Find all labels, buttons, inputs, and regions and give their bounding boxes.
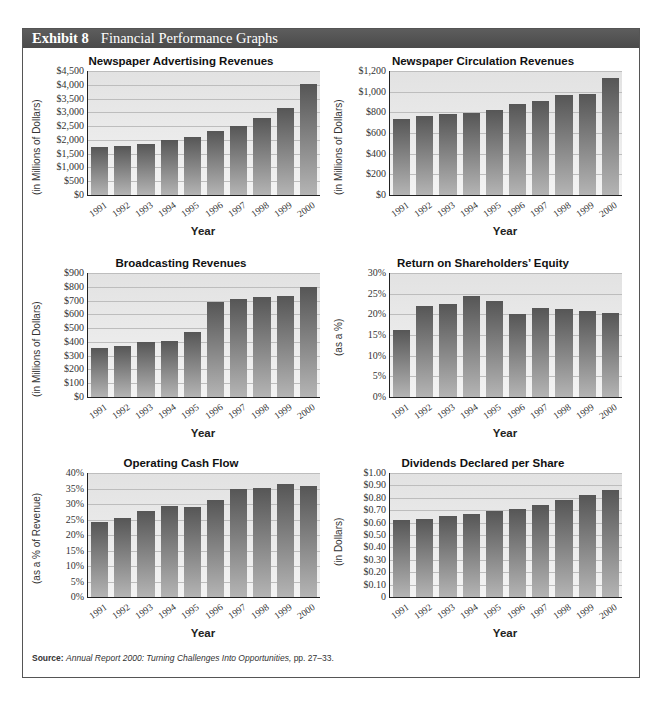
x-tick-label: 1991 — [87, 602, 108, 621]
x-tick-label: 1995 — [482, 402, 503, 421]
y-tick-label: $0.30 — [342, 554, 386, 565]
gridline — [390, 473, 622, 474]
x-tick-label: 1999 — [575, 402, 596, 421]
x-tick-label: 1996 — [203, 200, 224, 219]
x-tick-label: 1996 — [505, 602, 526, 621]
x-tick-label: 2000 — [296, 402, 317, 421]
y-tick-label: $0.10 — [342, 579, 386, 590]
x-tick-label: 1991 — [389, 602, 410, 621]
bar-1995 — [184, 332, 201, 397]
y-tick-label: $0 — [40, 391, 84, 402]
plot-area — [87, 273, 320, 398]
plot-area — [389, 71, 622, 196]
x-tick-label: 1997 — [226, 402, 247, 421]
bar-1991 — [91, 522, 108, 597]
y-tick-label: 0 — [342, 591, 386, 602]
y-tick-label: 0% — [342, 391, 386, 402]
x-tick-label: 1991 — [87, 200, 108, 219]
bar-1998 — [253, 118, 270, 195]
source-note: Source: Annual Report 2000: Turning Chal… — [32, 653, 334, 663]
y-tick-label: 10% — [40, 560, 84, 571]
x-tick-label: 1992 — [110, 402, 131, 421]
gridline — [390, 294, 622, 295]
y-tick-label: $700 — [40, 295, 84, 306]
x-tick-label: 1991 — [389, 200, 410, 219]
x-axis-label: Year — [173, 225, 233, 237]
bar-1994 — [463, 296, 480, 397]
y-tick-label: $300 — [40, 350, 84, 361]
bar-2000 — [602, 313, 619, 397]
y-tick-label: $0.70 — [342, 504, 386, 515]
bar-1992 — [416, 519, 433, 597]
x-tick-label: 2000 — [598, 402, 619, 421]
exhibit-frame: Exhibit 8 Financial Performance Graphs N… — [22, 28, 640, 678]
y-tick-label: $2,000 — [40, 134, 84, 145]
x-tick-label: 1994 — [157, 602, 178, 621]
chart-operating-cash-flow: Operating Cash Flow(as a % of Revenue)0%… — [31, 457, 331, 652]
y-tick-label: $600 — [40, 308, 84, 319]
x-tick-label: 1995 — [482, 200, 503, 219]
x-tick-label: 1999 — [575, 200, 596, 219]
x-tick-label: 1996 — [203, 602, 224, 621]
bar-1999 — [579, 311, 596, 397]
y-tick-label: $0.50 — [342, 529, 386, 540]
x-tick-label: 2000 — [598, 200, 619, 219]
chart-dividends-per-share: Dividends Declared per Share(in Dollars)… — [333, 457, 633, 652]
x-tick-label: 1992 — [412, 402, 433, 421]
bar-1991 — [393, 119, 410, 195]
y-tick-label: 15% — [40, 545, 84, 556]
bar-1999 — [579, 94, 596, 195]
x-tick-label: 1993 — [435, 200, 456, 219]
x-tick-label: 1994 — [459, 402, 480, 421]
x-tick-label: 1995 — [482, 602, 503, 621]
y-tick-label: $600 — [342, 127, 386, 138]
x-tick-label: 1997 — [226, 200, 247, 219]
bar-1995 — [486, 301, 503, 397]
bar-1993 — [439, 114, 456, 195]
y-tick-label: $400 — [342, 148, 386, 159]
chart-advertising-revenues: Newspaper Advertising Revenues(in Millio… — [31, 55, 331, 250]
plot-area — [389, 473, 622, 598]
x-tick-label: 1994 — [459, 602, 480, 621]
x-tick-label: 1999 — [273, 602, 294, 621]
x-tick-label: 1992 — [110, 602, 131, 621]
bar-1999 — [579, 495, 596, 597]
bar-1994 — [161, 341, 178, 397]
y-tick-label: $0.20 — [342, 566, 386, 577]
x-tick-label: 1994 — [459, 200, 480, 219]
gridline — [88, 273, 320, 274]
source-title: Annual Report 2000: Turning Challenges I… — [66, 653, 291, 663]
bar-1994 — [463, 514, 480, 597]
x-tick-label: 1992 — [110, 200, 131, 219]
y-tick-label: $1,200 — [342, 65, 386, 76]
x-axis-label: Year — [475, 627, 535, 639]
bar-1996 — [207, 500, 224, 597]
y-tick-label: $3,500 — [40, 93, 84, 104]
bar-2000 — [602, 490, 619, 597]
x-tick-label: 1998 — [249, 200, 270, 219]
x-tick-label: 1994 — [157, 200, 178, 219]
bar-1993 — [137, 511, 154, 597]
y-tick-label: 30% — [40, 498, 84, 509]
x-tick-label: 1993 — [133, 200, 154, 219]
y-tick-label: $500 — [40, 322, 84, 333]
x-tick-label: 1993 — [133, 402, 154, 421]
y-tick-label: 30% — [342, 267, 386, 278]
bar-1997 — [230, 299, 247, 397]
source-pages: pp. 27–33. — [291, 653, 334, 663]
y-tick-label: 25% — [40, 514, 84, 525]
exhibit-title: Financial Performance Graphs — [101, 30, 278, 47]
gridline — [88, 99, 320, 100]
y-tick-label: $100 — [40, 377, 84, 388]
y-tick-label: 15% — [342, 329, 386, 340]
x-tick-label: 2000 — [598, 602, 619, 621]
y-tick-label: $0.80 — [342, 492, 386, 503]
chart-circulation-revenues: Newspaper Circulation Revenues(in Millio… — [333, 55, 633, 250]
bar-1993 — [137, 342, 154, 397]
x-tick-label: 1998 — [551, 200, 572, 219]
y-tick-label: $500 — [40, 175, 84, 186]
bar-1999 — [277, 296, 294, 397]
x-tick-label: 1998 — [249, 402, 270, 421]
y-tick-label: $1,000 — [40, 161, 84, 172]
y-tick-label: $0.90 — [342, 479, 386, 490]
